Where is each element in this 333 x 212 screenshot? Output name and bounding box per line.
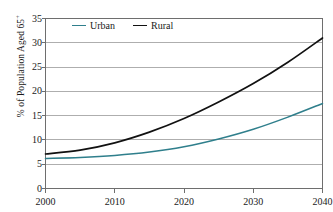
legend-label-urban: Urban xyxy=(90,20,115,31)
chart-legend: Urban Rural xyxy=(72,20,173,31)
series-line-urban xyxy=(46,104,323,159)
series-line-rural xyxy=(46,38,323,154)
legend-swatch-urban-icon xyxy=(72,25,86,26)
plot-frame xyxy=(46,19,323,189)
legend-item-urban: Urban xyxy=(72,20,115,31)
legend-label-rural: Rural xyxy=(151,20,173,31)
chart-figure: % of Population Aged 65+ 05101520253035 … xyxy=(0,0,333,212)
legend-item-rural: Rural xyxy=(133,20,173,31)
legend-swatch-rural-icon xyxy=(133,25,147,26)
plot-area xyxy=(0,0,333,212)
